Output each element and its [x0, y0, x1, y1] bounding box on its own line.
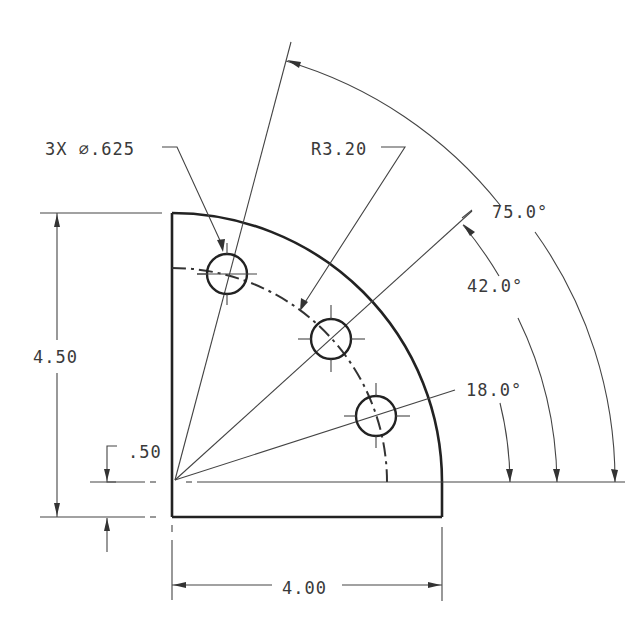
width-label: 4.00	[282, 578, 327, 598]
angle-18-label: 18.0°	[466, 380, 522, 400]
angle-42-dimension: 42.0°	[463, 224, 560, 482]
width-dimension: 4.00	[172, 527, 442, 601]
radius-callout: R3.20	[300, 139, 405, 311]
offset-dimension: .50	[104, 442, 162, 552]
angle-75-dimension: 75.0°	[286, 60, 618, 482]
height-label: 4.50	[33, 347, 78, 367]
bolt-circle-centerline	[172, 268, 387, 482]
hole-callout-text: 3X ⌀.625	[45, 139, 135, 159]
offset-label: .50	[128, 442, 162, 462]
angle-18-dimension: 18.0°	[466, 380, 522, 482]
engineering-drawing: 3X ⌀.625 R3.20 75.0° 42.0° 18.0°	[0, 0, 644, 631]
radius-callout-text: R3.20	[311, 139, 367, 159]
angle-reference-lines	[175, 42, 472, 480]
hole-callout: 3X ⌀.625	[45, 139, 225, 252]
holes	[197, 243, 410, 448]
height-dimension: 4.50	[33, 213, 162, 517]
angle-75-label: 75.0°	[492, 202, 548, 222]
angle-42-label: 42.0°	[467, 276, 523, 296]
hole-75deg	[197, 243, 257, 305]
